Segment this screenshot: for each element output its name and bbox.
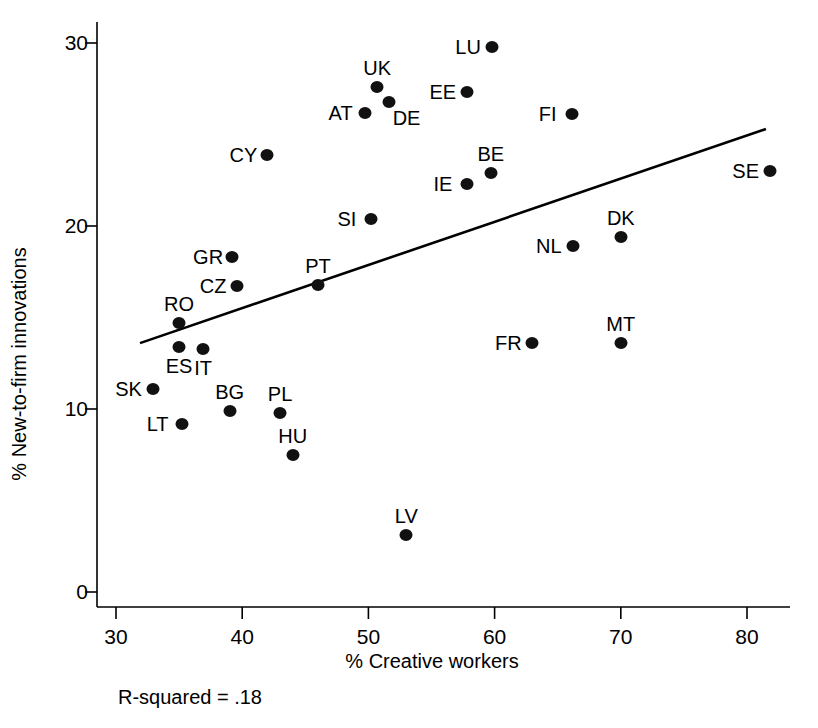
data-point-lu[interactable] bbox=[486, 41, 499, 53]
data-point-fr[interactable] bbox=[526, 337, 539, 349]
x-tick-label: 30 bbox=[104, 625, 127, 649]
data-point-gr[interactable] bbox=[226, 251, 239, 263]
data-point-cz[interactable] bbox=[231, 280, 244, 292]
y-tick-label: 0 bbox=[40, 580, 88, 604]
axes bbox=[85, 22, 790, 619]
data-point-be[interactable] bbox=[484, 167, 497, 179]
data-point-label-bg: BG bbox=[215, 380, 244, 403]
data-point-mt[interactable] bbox=[614, 337, 627, 349]
y-tick-label: 30 bbox=[40, 31, 88, 55]
data-point-label-ee: EE bbox=[429, 81, 456, 104]
data-point-label-cz: CZ bbox=[200, 275, 227, 298]
data-point-pt[interactable] bbox=[311, 279, 324, 291]
data-point-label-fr: FR bbox=[495, 332, 522, 355]
data-point-ee[interactable] bbox=[460, 86, 473, 98]
data-point-label-sk: SK bbox=[115, 377, 142, 400]
data-point-lv[interactable] bbox=[400, 529, 413, 541]
data-point-label-fi: FI bbox=[539, 103, 557, 126]
data-point-es[interactable] bbox=[173, 341, 186, 353]
data-point-label-uk: UK bbox=[363, 56, 391, 79]
data-point-bg[interactable] bbox=[223, 405, 236, 417]
data-point-label-be: BE bbox=[477, 142, 504, 165]
data-point-hu[interactable] bbox=[286, 449, 299, 461]
data-point-label-nl: NL bbox=[536, 235, 562, 258]
data-point-label-dk: DK bbox=[607, 206, 635, 229]
data-point-label-es: ES bbox=[166, 354, 193, 377]
data-point-ro[interactable] bbox=[173, 317, 186, 329]
data-point-label-mt: MT bbox=[606, 313, 635, 336]
x-tick-label: 40 bbox=[231, 625, 254, 649]
data-point-label-cy: CY bbox=[230, 143, 258, 166]
data-point-at[interactable] bbox=[358, 107, 371, 119]
data-point-si[interactable] bbox=[364, 213, 377, 225]
data-point-uk[interactable] bbox=[371, 81, 384, 93]
data-point-label-at: AT bbox=[329, 101, 353, 124]
data-point-label-de: DE bbox=[393, 106, 421, 129]
data-point-fi[interactable] bbox=[565, 108, 578, 120]
data-point-lt[interactable] bbox=[175, 418, 188, 430]
x-axis-title: % Creative workers bbox=[345, 650, 518, 673]
data-point-ie[interactable] bbox=[460, 178, 473, 190]
data-point-sk[interactable] bbox=[146, 383, 159, 395]
data-point-label-se: SE bbox=[732, 160, 759, 183]
data-point-label-it: IT bbox=[194, 356, 212, 379]
x-tick-label: 50 bbox=[357, 625, 380, 649]
data-point-cy[interactable] bbox=[261, 149, 274, 161]
data-point-dk[interactable] bbox=[614, 231, 627, 243]
data-point-label-lt: LT bbox=[147, 412, 169, 435]
figure-container: 0102030 304050607080 SKLTESROITBGGRCZCYP… bbox=[0, 0, 818, 728]
data-point-pl[interactable] bbox=[274, 407, 287, 419]
data-point-label-ro: RO bbox=[164, 292, 194, 315]
data-point-label-ie: IE bbox=[433, 172, 452, 195]
y-axis-title: % New-to-firm innovations bbox=[8, 247, 31, 480]
data-point-se[interactable] bbox=[763, 165, 776, 177]
y-tick-label: 20 bbox=[40, 214, 88, 238]
data-point-nl[interactable] bbox=[566, 240, 579, 252]
r-squared-annotation: R-squared = .18 bbox=[118, 686, 262, 709]
data-point-it[interactable] bbox=[197, 343, 210, 355]
x-tick-label: 70 bbox=[609, 625, 632, 649]
data-point-label-hu: HU bbox=[278, 424, 307, 447]
data-point-label-gr: GR bbox=[193, 246, 223, 269]
x-tick-label: 60 bbox=[483, 625, 506, 649]
data-point-label-si: SI bbox=[337, 207, 356, 230]
data-point-label-pl: PL bbox=[268, 382, 292, 405]
data-point-label-pt: PT bbox=[305, 254, 331, 277]
scatter-plot: 0102030 304050607080 SKLTESROITBGGRCZCYP… bbox=[0, 0, 818, 728]
data-point-label-lu: LU bbox=[455, 35, 481, 58]
y-tick-label: 10 bbox=[40, 397, 88, 421]
x-tick-label: 80 bbox=[735, 625, 758, 649]
data-point-label-lv: LV bbox=[395, 505, 418, 528]
